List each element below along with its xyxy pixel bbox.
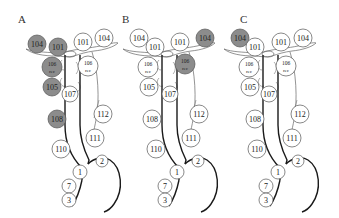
svg-text:3: 3 [264, 196, 268, 205]
node-105-b: 105 [140, 78, 158, 96]
svg-text:105: 105 [244, 83, 256, 92]
svg-text:105: 105 [143, 83, 155, 92]
svg-text:2: 2 [100, 157, 104, 166]
node-111-c: 111 [283, 129, 301, 147]
node-104-a: 104 [28, 35, 46, 53]
node-1-a: 1 [73, 165, 87, 179]
svg-text:101: 101 [249, 43, 261, 52]
node-3-c: 3 [259, 193, 273, 207]
node-106-rec-a: 106rec [42, 57, 62, 77]
svg-text:104: 104 [98, 34, 110, 43]
svg-text:7: 7 [264, 182, 268, 191]
node-111-b: 111 [182, 129, 200, 147]
node-7-c: 7 [259, 179, 273, 193]
node-110-c: 110 [248, 140, 266, 158]
node-101-a: 101 [49, 38, 67, 56]
svg-text:107: 107 [263, 90, 275, 99]
node-2-b: 2 [192, 155, 204, 167]
node-107-a: 107 [62, 86, 78, 102]
svg-text:rec: rec [49, 69, 56, 74]
node-112-b: 112 [190, 105, 208, 123]
svg-text:rec: rec [85, 68, 92, 73]
node-7-a: 7 [62, 179, 76, 193]
node-106-rec-a: 106rec [78, 56, 98, 76]
svg-text:104: 104 [297, 34, 309, 43]
svg-text:107: 107 [64, 90, 76, 99]
svg-text:111: 111 [286, 134, 297, 143]
svg-text:101: 101 [52, 43, 64, 52]
svg-text:106: 106 [245, 61, 254, 67]
node-3-b: 3 [158, 193, 172, 207]
svg-text:rec: rec [246, 69, 253, 74]
svg-text:rec: rec [145, 69, 152, 74]
node-104-b: 104 [130, 29, 148, 47]
node-108-b: 108 [143, 110, 161, 128]
svg-text:108: 108 [51, 115, 63, 124]
node-106-rec-b: 106rec [138, 57, 158, 77]
node-101-c: 101 [272, 33, 290, 51]
svg-text:7: 7 [163, 182, 167, 191]
node-106-rec-b: 106rec [175, 54, 195, 74]
svg-text:108: 108 [249, 115, 261, 124]
svg-text:110: 110 [150, 145, 162, 154]
node-104-b: 104 [196, 29, 214, 47]
svg-text:3: 3 [67, 196, 71, 205]
node-108-a: 108 [48, 110, 66, 128]
node-108-c: 108 [246, 110, 264, 128]
node-105-c: 105 [241, 78, 259, 96]
svg-text:110: 110 [251, 145, 263, 154]
svg-text:111: 111 [185, 134, 196, 143]
node-101-b: 101 [171, 33, 189, 51]
node-106-rec-c: 106rec [276, 56, 296, 76]
svg-text:106: 106 [144, 61, 153, 67]
svg-text:107: 107 [164, 90, 176, 99]
svg-text:3: 3 [163, 196, 167, 205]
svg-text:1: 1 [276, 168, 280, 177]
svg-text:112: 112 [97, 110, 109, 119]
svg-text:104: 104 [199, 34, 211, 43]
svg-text:112: 112 [193, 110, 205, 119]
svg-text:105: 105 [46, 83, 58, 92]
node-107-c: 107 [261, 86, 277, 102]
node-106-rec-c: 106rec [239, 57, 259, 77]
svg-text:106: 106 [84, 60, 93, 66]
node-111-a: 111 [86, 129, 104, 147]
svg-text:2: 2 [296, 157, 300, 166]
svg-text:7: 7 [67, 182, 71, 191]
svg-text:112: 112 [294, 110, 306, 119]
node-112-a: 112 [94, 105, 112, 123]
node-1-b: 1 [170, 165, 184, 179]
svg-text:106: 106 [282, 60, 291, 66]
node-101-a: 101 [74, 33, 92, 51]
svg-text:rec: rec [283, 68, 290, 73]
svg-text:101: 101 [174, 38, 186, 47]
node-2-a: 2 [96, 155, 108, 167]
svg-text:1: 1 [175, 168, 179, 177]
svg-text:1: 1 [78, 168, 82, 177]
node-107-b: 107 [162, 86, 178, 102]
node-105-a: 105 [43, 78, 61, 96]
svg-text:rec: rec [182, 66, 189, 71]
node-110-a: 110 [52, 140, 70, 158]
svg-text:104: 104 [234, 34, 246, 43]
node-7-b: 7 [158, 179, 172, 193]
svg-text:2: 2 [196, 157, 200, 166]
node-110-b: 110 [147, 140, 165, 158]
node-101-b: 101 [146, 38, 164, 56]
node-104-c: 104 [294, 29, 312, 47]
svg-text:111: 111 [89, 134, 100, 143]
svg-text:110: 110 [55, 145, 67, 154]
node-2-c: 2 [292, 155, 304, 167]
svg-text:104: 104 [31, 40, 43, 49]
node-112-c: 112 [291, 105, 309, 123]
svg-text:101: 101 [149, 43, 161, 52]
svg-text:106: 106 [48, 61, 57, 67]
svg-text:101: 101 [77, 38, 89, 47]
lymph-node-station-diagram: 104101101104106rec106rec1051071081121111… [0, 0, 339, 218]
node-104-a: 104 [95, 29, 113, 47]
svg-text:104: 104 [133, 34, 145, 43]
svg-text:106: 106 [181, 58, 190, 64]
node-101-c: 101 [246, 38, 264, 56]
node-3-a: 3 [62, 193, 76, 207]
svg-text:101: 101 [275, 38, 287, 47]
